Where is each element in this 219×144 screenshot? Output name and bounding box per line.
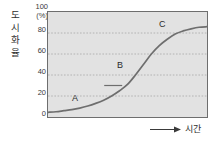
y-tick-label-80: 80 (26, 26, 46, 34)
urbanization-curve-figure: 도시화율 100 (%) 80 60 40 20 0 A B C 시간 (0, 0, 219, 144)
x-axis-label-group: 시간 (150, 124, 201, 134)
arrow-right-icon (150, 125, 182, 134)
y-axis-unit-label: (%) (26, 12, 48, 21)
annotation-label-b: B (117, 61, 123, 70)
y-axis-unit-group: 100 (%) (26, 3, 48, 20)
y-tick-label-0: 0 (26, 110, 46, 118)
gridlines (48, 33, 207, 96)
annotation-label-a: A (72, 94, 78, 103)
y-tick-label-60: 60 (26, 47, 46, 55)
x-axis-title: 시간 (185, 124, 201, 134)
y-axis-title: 도시화율 (8, 9, 22, 59)
y-tick-label-40: 40 (26, 68, 46, 76)
y-tick-label-20: 20 (26, 89, 46, 97)
annotation-label-c: C (159, 20, 166, 29)
